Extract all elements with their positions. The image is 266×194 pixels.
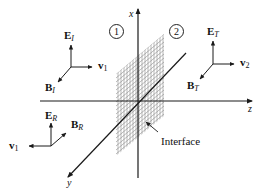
wave-interface-diagram: x z y 1 2 EI v1 BI ET v2 BT ER BR v1 Int… xyxy=(0,0,266,194)
incident-B-label: BI xyxy=(45,82,55,95)
transmitted-B-label: BT xyxy=(187,80,199,93)
diagram-canvas xyxy=(0,0,266,194)
incident-v-label: v1 xyxy=(98,60,108,73)
reflected-v-label: v1 xyxy=(9,140,19,153)
region-1-marker: 1 xyxy=(109,24,124,39)
incident-E-label: EI xyxy=(64,30,74,43)
reflected-wave-vectors xyxy=(29,123,66,146)
transmitted-E-label: ET xyxy=(207,26,219,39)
reflected-E-label: ER xyxy=(45,110,57,123)
transmitted-wave-vectors xyxy=(200,41,234,79)
z-axis-label: z xyxy=(248,104,252,114)
region-2-marker: 2 xyxy=(169,24,184,39)
incident-wave-vectors xyxy=(58,45,92,82)
transmitted-v-label: v2 xyxy=(240,57,250,70)
interface-label: Interface xyxy=(161,136,200,147)
interface-plane xyxy=(110,20,170,171)
x-axis-label: x xyxy=(129,9,133,19)
reflected-B-arrow xyxy=(51,133,66,146)
reflected-B-label: BR xyxy=(71,119,83,132)
y-axis-label: y xyxy=(67,178,71,188)
incident-B-arrow xyxy=(58,67,71,82)
transmitted-B-arrow xyxy=(200,64,213,79)
